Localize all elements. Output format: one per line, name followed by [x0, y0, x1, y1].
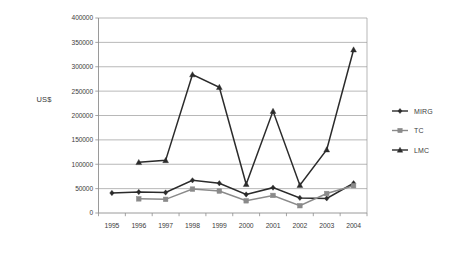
data-point-marker-diamond: [398, 108, 402, 113]
data-point-marker-diamond: [163, 190, 167, 195]
legend-label: TC: [414, 127, 424, 134]
series-line-lmc: [139, 50, 354, 186]
data-point-marker-square: [324, 191, 329, 196]
x-tick-label: 1998: [185, 222, 200, 229]
y-tick-label: 50000: [75, 185, 93, 192]
data-point-marker-triangle: [190, 72, 196, 77]
x-tick-label: 1999: [212, 222, 227, 229]
y-tick-label: 100000: [72, 161, 94, 168]
legend-item-mirg[interactable]: MIRG: [392, 108, 433, 115]
x-tick-label: 2001: [266, 222, 281, 229]
y-tick-label: 400000: [72, 14, 94, 21]
legend-item-tc[interactable]: TC: [392, 127, 424, 134]
x-tick-label: 1997: [158, 222, 173, 229]
chart-plot-area: 0500001000001500002000002500003000003500…: [0, 0, 462, 255]
y-tick-label: 200000: [72, 112, 94, 119]
data-point-marker-square: [217, 189, 222, 194]
data-point-marker-square: [398, 128, 402, 132]
data-point-marker-diamond: [217, 181, 221, 186]
x-tick-label: 2003: [319, 222, 334, 229]
data-point-marker-square: [244, 199, 249, 204]
chart-legend: MIRGTCLMC: [392, 108, 433, 154]
y-tick-label: 350000: [72, 39, 94, 46]
x-tick-label: 2000: [239, 222, 254, 229]
data-point-marker-triangle: [324, 147, 330, 152]
data-point-marker-square: [271, 193, 276, 198]
data-point-marker-triangle: [243, 181, 249, 186]
data-point-marker-triangle: [351, 47, 357, 52]
data-point-marker-diamond: [190, 178, 194, 183]
legend-item-lmc[interactable]: LMC: [392, 147, 429, 154]
x-tick-label: 2004: [346, 222, 361, 229]
x-tick-label: 1995: [105, 222, 120, 229]
y-tick-label: 300000: [72, 63, 94, 70]
data-point-marker-diamond: [137, 189, 141, 194]
line-chart: US$ 050000100000150000200000250000300000…: [0, 0, 462, 255]
y-tick-label: 0: [89, 209, 93, 216]
y-tick-label: 150000: [72, 136, 94, 143]
legend-label: LMC: [414, 147, 429, 154]
series-lmc: [136, 47, 357, 188]
data-point-marker-square: [136, 197, 141, 202]
y-axis-tick-labels: 0500001000001500002000002500003000003500…: [72, 14, 99, 216]
data-point-marker-diamond: [271, 185, 275, 190]
data-point-marker-triangle: [270, 108, 276, 113]
data-series: [110, 47, 357, 208]
data-point-marker-square: [190, 187, 195, 192]
x-tick-label: 2002: [293, 222, 308, 229]
data-point-marker-diamond: [298, 195, 302, 200]
data-point-marker-square: [298, 203, 303, 208]
x-tick-label: 1996: [131, 222, 146, 229]
data-point-marker-diamond: [244, 192, 248, 197]
data-point-marker-diamond: [110, 190, 114, 195]
legend-label: MIRG: [414, 108, 433, 115]
data-point-marker-diamond: [325, 196, 329, 201]
x-axis-tick-labels: 1995199619971998199920002001200220032004: [99, 213, 368, 229]
y-tick-label: 250000: [72, 88, 94, 95]
data-point-marker-square: [351, 183, 356, 188]
data-point-marker-square: [163, 197, 168, 202]
